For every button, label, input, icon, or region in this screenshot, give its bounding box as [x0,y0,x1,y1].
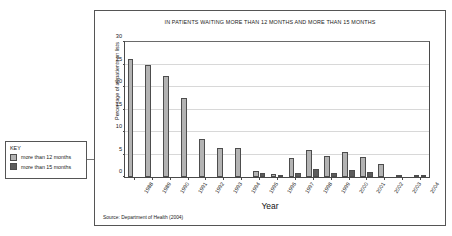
x-tick-mark [188,177,189,180]
bar-12-months [289,158,295,177]
bar-group [268,42,286,177]
bar-group [125,42,143,177]
bar-12-months [271,174,277,177]
bar-12-months [145,65,151,178]
bar-12-months [306,150,312,177]
x-tick-mark [223,177,224,180]
bar-15-months [278,175,284,177]
x-tick-label: 1998 [321,181,332,194]
x-tick-label: 1988 [143,181,154,194]
x-tick-label: 2003 [411,181,422,194]
legend-swatch-15-months [10,163,17,170]
plot-area: Percentage of all patients on lists 0510… [124,41,430,178]
bar-15-months [367,172,373,177]
legend-label-12-months: more than 12 months [21,154,71,160]
x-tick-mark [170,177,171,180]
bar-15-months [349,170,355,177]
bar-group [322,42,340,177]
bar-group [340,42,358,177]
x-tick-mark [402,177,403,180]
x-tick-mark [152,177,153,180]
y-tick-label: 5 [119,146,122,152]
legend-swatch-12-months [10,154,17,161]
bar-group [393,42,411,177]
bar-12-months [414,175,420,177]
bar-12-months [324,156,330,177]
x-tick-mark [205,177,206,180]
bar-12-months [396,175,402,177]
x-tick-mark [134,177,135,180]
y-tick-label: 30 [116,33,122,39]
bar-15-months [295,173,301,178]
chart-legend: KEY more than 12 months more than 15 mon… [5,141,87,179]
x-tick-label: 2001 [375,181,386,194]
bar-group [375,42,393,177]
legend-item-12-months: more than 12 months [10,154,82,161]
bar-group [214,42,232,177]
bar-group [250,42,268,177]
bar-12-months [253,171,259,177]
bar-12-months [199,139,205,177]
x-tick-mark [349,177,350,180]
x-tick-label: 1999 [339,181,350,194]
x-axis-title: Year [95,201,445,211]
bar-group [304,42,322,177]
x-tick-mark [259,177,260,180]
x-tick-mark [366,177,367,180]
bar-group [197,42,215,177]
x-tick-label: 1991 [196,181,207,194]
bar-15-months [313,169,319,177]
bar-12-months [378,164,384,177]
y-tick-label: 15 [116,101,122,107]
x-tick-mark [241,177,242,180]
chart-frame: IN PATIENTS WAITING MORE THAN 12 MONTHS … [94,10,446,226]
x-tick-label: 2000 [357,181,368,194]
chart-title: IN PATIENTS WAITING MORE THAN 12 MONTHS … [95,19,445,25]
bar-group [411,42,429,177]
legend-item-15-months: more than 15 months [10,163,82,170]
x-tick-label: 1990 [178,181,189,194]
bar-12-months [128,59,134,177]
bar-12-months [181,98,187,177]
bar-group [143,42,161,177]
x-tick-label: 1995 [268,181,279,194]
x-tick-label: 1996 [286,181,297,194]
x-tick-mark [331,177,332,180]
legend-title: KEY [10,145,82,151]
y-tick-label: 20 [116,78,122,84]
bar-12-months [360,157,366,177]
x-tick-label: 1994 [250,181,261,194]
x-tick-mark [384,177,385,180]
y-tick-label: 0 [119,168,122,174]
bar-12-months [235,148,241,177]
x-tick-label: 1993 [232,181,243,194]
x-tick-label: 2002 [393,181,404,194]
x-tick-mark [295,177,296,180]
x-tick-label: 2004 [429,181,440,194]
x-tick-label: 1989 [160,181,171,194]
bar-15-months [331,173,337,177]
bar-15-months [260,173,266,177]
bar-12-months [217,148,223,177]
bar-group [161,42,179,177]
bar-group [357,42,375,177]
bar-group [232,42,250,177]
bar-12-months [342,152,348,177]
y-tick-label: 25 [116,56,122,62]
bar-15-months [421,175,427,177]
x-tick-label: 1992 [214,181,225,194]
source-note: Source: Department of Health (2004) [103,215,183,220]
x-tick-mark [277,177,278,180]
bar-group [179,42,197,177]
bar-group [286,42,304,177]
y-tick-label: 10 [116,123,122,129]
x-tick-mark [313,177,314,180]
x-tick-label: 1997 [304,181,315,194]
x-tick-mark [420,177,421,180]
legend-label-15-months: more than 15 months [21,164,71,170]
bar-12-months [163,76,169,177]
